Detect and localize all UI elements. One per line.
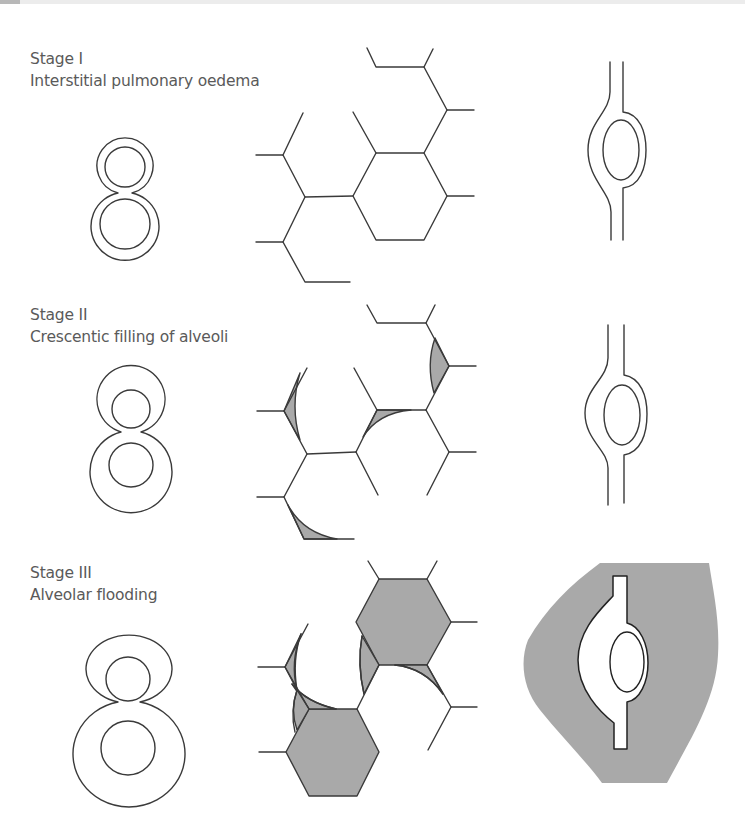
stage-2-alveolus-eight <box>90 366 172 513</box>
stage-3-capillary-flooded <box>524 563 719 783</box>
stage-1-capillary <box>588 62 646 240</box>
stage-2-alveolar-network <box>257 305 476 539</box>
oedema-diagram <box>0 0 745 835</box>
stage-2-capillary <box>585 325 647 505</box>
stage-1-alveolus-eight <box>91 138 159 260</box>
stage-1-alveolar-network <box>256 48 474 282</box>
stage-3-alveolar-network <box>258 561 477 796</box>
stage-3-alveolus-eight <box>73 635 185 807</box>
stage-2-fluid-crescents <box>284 338 449 539</box>
